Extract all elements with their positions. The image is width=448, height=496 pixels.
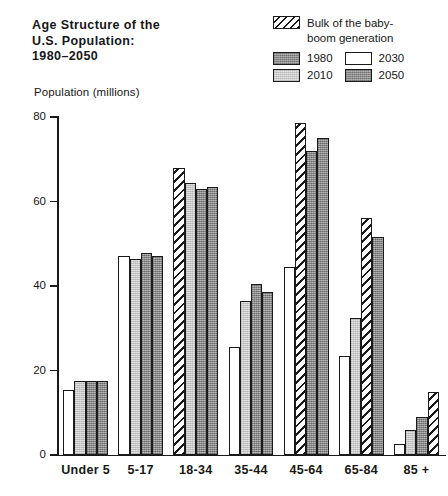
y-axis-tick — [50, 454, 58, 456]
bar-under-5-2030 — [86, 381, 97, 455]
bar-under-5-2050 — [97, 381, 108, 455]
bar-18-34-2030 — [196, 189, 207, 455]
bar-35-44-1980 — [229, 347, 240, 455]
y-axis-tick — [50, 116, 58, 118]
y-axis-tick-label: 60 — [6, 196, 46, 207]
bar-85--2030 — [416, 417, 427, 455]
x-axis-label-85-: 85 + — [389, 463, 444, 477]
bar-65-84-2010 — [350, 318, 361, 455]
bar-under-5-1980 — [63, 390, 74, 455]
y-axis-tick-label: 40 — [6, 280, 46, 291]
bar-65-84-1980 — [339, 356, 350, 455]
x-axis-label-5-17: 5-17 — [113, 463, 168, 477]
y-axis-tick — [50, 370, 58, 372]
bar-85--2010 — [405, 430, 416, 455]
bar-45-64-2030 — [306, 151, 317, 455]
bar-45-64-2010 — [295, 123, 306, 455]
y-axis-tick-label: 80 — [6, 111, 46, 122]
bar-5-17-2050 — [152, 256, 163, 455]
bar-45-64-1980 — [284, 267, 295, 455]
y-axis-tick — [50, 285, 58, 287]
plot-area — [58, 117, 444, 455]
bar-18-34-1980 — [173, 168, 184, 455]
bar-18-34-2050 — [207, 187, 218, 455]
x-axis-label-under-5: Under 5 — [58, 463, 113, 477]
bar-under-5-2010 — [74, 381, 85, 455]
bar-85--2050 — [428, 392, 439, 455]
x-axis-label-18-34: 18-34 — [168, 463, 223, 477]
bar-35-44-2030 — [251, 284, 262, 455]
bar-35-44-2010 — [240, 301, 251, 455]
bar-65-84-2030 — [361, 218, 372, 455]
bar-chart: 020406080 Under 55-1718-3435-4445-6465-8… — [0, 0, 448, 496]
y-axis-tick-label: 20 — [6, 365, 46, 376]
bar-5-17-2010 — [130, 259, 141, 455]
x-axis-label-65-84: 65-84 — [334, 463, 389, 477]
x-axis-label-35-44: 35-44 — [223, 463, 278, 477]
y-axis-tick-label: 0 — [6, 449, 46, 460]
bar-85--1980 — [394, 444, 405, 455]
y-axis-tick — [50, 201, 58, 203]
bar-5-17-1980 — [118, 256, 129, 455]
bar-45-64-2050 — [317, 138, 328, 455]
bar-18-34-2010 — [185, 183, 196, 456]
bar-35-44-2050 — [262, 292, 273, 455]
bar-65-84-2050 — [372, 237, 383, 455]
bar-5-17-2030 — [141, 253, 152, 455]
x-axis-label-45-64: 45-64 — [279, 463, 334, 477]
